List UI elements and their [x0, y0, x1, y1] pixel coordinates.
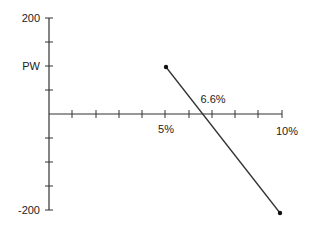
- y-label-neg200: -200: [18, 204, 40, 216]
- data-point-5pct: [164, 65, 168, 69]
- y-label-pw: PW: [22, 60, 40, 72]
- x-label-5pct: 5%: [158, 123, 174, 135]
- y-label-200: 200: [22, 12, 40, 24]
- data-point-10pct: [278, 211, 282, 215]
- pw-chart: 200 PW -200 5% 10% 6.6%: [0, 0, 310, 229]
- pw-line: [166, 67, 280, 213]
- x-label-10pct: 10%: [276, 125, 298, 137]
- root-annotation: 6.6%: [200, 93, 225, 105]
